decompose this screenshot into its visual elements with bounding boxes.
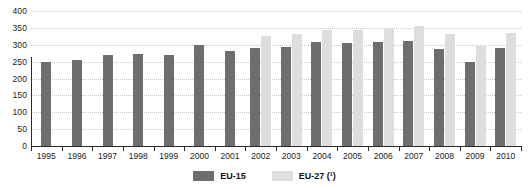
y-axis-labels: 050100150200250300350400 bbox=[0, 11, 27, 146]
y-axis-tick-label: 350 bbox=[13, 23, 27, 33]
bar-eu15-2005 bbox=[342, 43, 352, 146]
bar-group-2001 bbox=[215, 11, 246, 146]
bar-eu27-2007 bbox=[414, 26, 424, 146]
bar-group-1999 bbox=[154, 11, 185, 146]
bar-eu15-1998 bbox=[133, 54, 143, 146]
bar-eu15-2008 bbox=[434, 49, 444, 146]
legend-label: EU-27 (¹) bbox=[299, 171, 336, 181]
bar-group-2010 bbox=[490, 11, 521, 146]
x-axis-label-2003: 2003 bbox=[282, 151, 301, 161]
y-axis-tick-label: 200 bbox=[13, 74, 27, 84]
bar-eu15-2006 bbox=[373, 42, 383, 146]
x-axis-label-2005: 2005 bbox=[343, 151, 362, 161]
x-axis-tick bbox=[337, 146, 338, 151]
chart-legend: EU-15EU-27 (¹) bbox=[0, 169, 529, 183]
bar-eu15-1995 bbox=[41, 62, 51, 146]
x-axis-tick bbox=[399, 146, 400, 151]
x-axis-tick bbox=[429, 146, 430, 151]
x-axis-tick bbox=[123, 146, 124, 151]
x-axis-tick bbox=[307, 146, 308, 151]
x-axis-label-1995: 1995 bbox=[37, 151, 56, 161]
legend-label: EU-15 bbox=[220, 171, 246, 181]
bar-eu27-2004 bbox=[322, 30, 332, 146]
bar-group-2004 bbox=[307, 11, 338, 146]
bar-eu15-2003 bbox=[281, 47, 291, 146]
y-axis-tick-label: 300 bbox=[13, 40, 27, 50]
x-axis-tick bbox=[62, 146, 63, 151]
bar-eu15-2004 bbox=[311, 42, 321, 146]
legend-swatch-icon bbox=[272, 171, 293, 181]
bar-eu27-2009 bbox=[476, 46, 486, 146]
bar-group-1995 bbox=[31, 11, 62, 146]
x-axis-label-2001: 2001 bbox=[221, 151, 240, 161]
bar-eu27-2005 bbox=[353, 30, 363, 146]
bar-eu15-1996 bbox=[72, 60, 82, 146]
legend-item-eu15[interactable]: EU-15 bbox=[193, 171, 246, 181]
y-axis-tick-label: 400 bbox=[13, 6, 27, 16]
bar-eu27-2006 bbox=[384, 29, 394, 146]
bar-group-2003 bbox=[276, 11, 307, 146]
x-axis-label-2002: 2002 bbox=[251, 151, 270, 161]
x-axis-ticks: 1995199619971998199920002001200220032004… bbox=[31, 146, 521, 162]
x-axis-tick bbox=[521, 146, 522, 151]
x-axis-tick bbox=[245, 146, 246, 151]
x-axis-label-1998: 1998 bbox=[129, 151, 148, 161]
bar-eu27-2008 bbox=[445, 34, 455, 146]
bar-group-1997 bbox=[92, 11, 123, 146]
legend-swatch-icon bbox=[193, 171, 214, 181]
x-axis-label-2010: 2010 bbox=[496, 151, 515, 161]
x-axis-tick bbox=[490, 146, 491, 151]
plot-area bbox=[31, 11, 521, 146]
x-axis-label-2006: 2006 bbox=[374, 151, 393, 161]
x-axis-tick bbox=[31, 146, 32, 151]
bar-chart-figure: 050100150200250300350400 199519961997199… bbox=[0, 0, 529, 189]
x-axis-label-1996: 1996 bbox=[67, 151, 86, 161]
bar-group-2009 bbox=[460, 11, 491, 146]
bar-eu15-2002 bbox=[250, 48, 260, 146]
y-axis-tick-label: 50 bbox=[17, 124, 27, 134]
y-axis-line bbox=[31, 57, 32, 147]
x-axis-tick bbox=[276, 146, 277, 151]
bar-group-2006 bbox=[368, 11, 399, 146]
bar-eu27-2003 bbox=[292, 34, 302, 146]
x-axis-label-1997: 1997 bbox=[98, 151, 117, 161]
bar-eu15-2009 bbox=[465, 62, 475, 146]
bar-eu15-2000 bbox=[194, 45, 204, 146]
x-axis-label-2004: 2004 bbox=[312, 151, 331, 161]
y-axis-tick-label: 0 bbox=[22, 141, 27, 151]
bar-group-2005 bbox=[337, 11, 368, 146]
x-axis-tick bbox=[460, 146, 461, 151]
x-axis-label-1999: 1999 bbox=[159, 151, 178, 161]
bar-group-2007 bbox=[399, 11, 430, 146]
bar-eu15-1999 bbox=[164, 55, 174, 146]
x-axis-tick bbox=[154, 146, 155, 151]
bar-group-1996 bbox=[62, 11, 93, 146]
bar-eu27-2010 bbox=[506, 33, 516, 146]
x-axis-tick bbox=[368, 146, 369, 151]
legend-item-eu27[interactable]: EU-27 (¹) bbox=[272, 171, 336, 181]
bar-eu15-2007 bbox=[403, 41, 413, 146]
x-axis-label-2009: 2009 bbox=[466, 151, 485, 161]
x-axis-tick bbox=[184, 146, 185, 151]
x-axis-tick bbox=[92, 146, 93, 151]
bar-eu15-2010 bbox=[495, 48, 505, 146]
bar-eu15-2001 bbox=[225, 51, 235, 147]
y-axis-tick-label: 150 bbox=[13, 90, 27, 100]
bar-group-1998 bbox=[123, 11, 154, 146]
bar-series-container bbox=[31, 11, 521, 146]
y-axis-tick-label: 250 bbox=[13, 57, 27, 67]
x-axis-label-2008: 2008 bbox=[435, 151, 454, 161]
y-axis-tick-label: 100 bbox=[13, 107, 27, 117]
bar-eu27-2002 bbox=[261, 36, 271, 146]
x-axis-label-2007: 2007 bbox=[404, 151, 423, 161]
bar-group-2008 bbox=[429, 11, 460, 146]
x-axis-tick bbox=[215, 146, 216, 151]
bar-eu15-1997 bbox=[103, 55, 113, 146]
x-axis-label-2000: 2000 bbox=[190, 151, 209, 161]
bar-group-2000 bbox=[184, 11, 215, 146]
bar-group-2002 bbox=[245, 11, 276, 146]
